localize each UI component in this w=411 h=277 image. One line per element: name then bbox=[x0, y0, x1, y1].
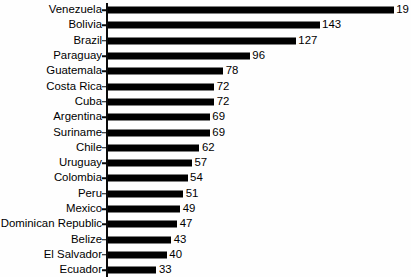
bar-value-label: 57 bbox=[195, 157, 208, 168]
axis-tick-mark bbox=[102, 254, 106, 256]
bar-row: Bolivia143 bbox=[0, 18, 411, 33]
bar bbox=[108, 98, 215, 105]
category-label: Ecuador bbox=[60, 265, 102, 276]
bar-value-label: 62 bbox=[202, 142, 215, 153]
bar-value-label: 72 bbox=[217, 96, 230, 107]
bar-row: Brazil127 bbox=[0, 33, 411, 48]
category-label: Brazil bbox=[74, 35, 102, 46]
bar-row: Uruguay57 bbox=[0, 156, 411, 171]
bar-value-label: 47 bbox=[180, 219, 193, 230]
axis-tick-mark bbox=[102, 224, 106, 226]
bar bbox=[108, 7, 394, 14]
bar-row: Argentina69 bbox=[0, 110, 411, 125]
bar-value-label: 40 bbox=[169, 249, 182, 260]
axis-tick-mark bbox=[102, 55, 106, 57]
axis-tick-mark bbox=[102, 208, 106, 210]
bar-row: Belize43 bbox=[0, 232, 411, 247]
bar-row: Colombia54 bbox=[0, 171, 411, 186]
bar bbox=[108, 190, 184, 197]
axis-tick-mark bbox=[102, 25, 106, 27]
category-label: Mexico bbox=[66, 203, 102, 214]
bar-value-label: 69 bbox=[212, 112, 225, 123]
bar bbox=[108, 68, 224, 75]
bar-chart: Venezuela19Bolivia143Brazil127Paraguay96… bbox=[0, 0, 411, 277]
axis-tick-mark bbox=[102, 269, 106, 271]
bar bbox=[108, 114, 210, 121]
bar-value-label: 127 bbox=[298, 35, 317, 46]
bar-row: Venezuela19 bbox=[0, 3, 411, 18]
category-label: Uruguay bbox=[59, 157, 102, 168]
bar-value-label: 43 bbox=[174, 234, 187, 245]
axis-tick-mark bbox=[102, 9, 106, 11]
bar-row: Peru51 bbox=[0, 186, 411, 201]
bar-value-label: 19 bbox=[396, 4, 409, 15]
category-label: Paraguay bbox=[53, 50, 102, 61]
category-label: Bolivia bbox=[68, 20, 102, 31]
axis-tick-mark bbox=[102, 101, 106, 103]
axis-tick-mark bbox=[102, 239, 106, 241]
category-label: Suriname bbox=[53, 127, 102, 138]
bar-row: Cuba72 bbox=[0, 94, 411, 109]
axis-tick-mark bbox=[102, 116, 106, 118]
axis-tick-mark bbox=[102, 40, 106, 42]
axis-tick-mark bbox=[102, 71, 106, 73]
axis-tick-mark bbox=[102, 193, 106, 195]
bar-value-label: 54 bbox=[190, 173, 203, 184]
bar bbox=[108, 251, 167, 258]
bar-value-label: 51 bbox=[186, 188, 199, 199]
axis-tick-mark bbox=[102, 162, 106, 164]
category-label: Costa Rica bbox=[46, 81, 102, 92]
axis-tick-mark bbox=[102, 178, 106, 180]
bar bbox=[108, 22, 320, 29]
bar-value-label: 96 bbox=[252, 50, 265, 61]
bar bbox=[108, 37, 296, 44]
category-label: Argentina bbox=[53, 112, 102, 123]
bar-value-label: 78 bbox=[226, 66, 239, 77]
bar bbox=[108, 129, 210, 136]
axis-tick-mark bbox=[102, 147, 106, 149]
category-label: El Salvador bbox=[44, 249, 102, 260]
bar-value-label: 49 bbox=[183, 203, 196, 214]
bar bbox=[108, 144, 200, 151]
category-label: Guatemala bbox=[46, 66, 102, 77]
category-label: Dominican Republic bbox=[1, 219, 102, 230]
category-label: Venezuela bbox=[49, 4, 102, 15]
bar-row: Ecuador33 bbox=[0, 263, 411, 277]
bar-row: Mexico49 bbox=[0, 201, 411, 216]
bar bbox=[108, 83, 215, 90]
category-label: Peru bbox=[78, 188, 102, 199]
axis-tick-mark bbox=[102, 132, 106, 134]
bar-row: Guatemala78 bbox=[0, 64, 411, 79]
category-label: Chile bbox=[76, 142, 102, 153]
bar-row: Costa Rica72 bbox=[0, 79, 411, 94]
bar bbox=[108, 53, 250, 60]
bar-row: Suriname69 bbox=[0, 125, 411, 140]
bar bbox=[108, 236, 172, 243]
category-label: Colombia bbox=[54, 173, 102, 184]
plot-area: Venezuela19Bolivia143Brazil127Paraguay96… bbox=[0, 0, 411, 277]
bar bbox=[108, 206, 181, 213]
bar bbox=[108, 267, 157, 274]
bar-row: El Salvador40 bbox=[0, 247, 411, 262]
bar-row: Paraguay96 bbox=[0, 48, 411, 63]
bar bbox=[108, 221, 178, 228]
category-label: Cuba bbox=[75, 96, 102, 107]
category-label: Belize bbox=[71, 234, 102, 245]
bar bbox=[108, 175, 188, 182]
bar-value-label: 72 bbox=[217, 81, 230, 92]
bar-value-label: 69 bbox=[212, 127, 225, 138]
bar bbox=[108, 160, 193, 167]
bar-value-label: 143 bbox=[322, 20, 341, 31]
bar-row: Chile62 bbox=[0, 140, 411, 155]
bar-row: Dominican Republic47 bbox=[0, 217, 411, 232]
bar-value-label: 33 bbox=[159, 265, 172, 276]
axis-tick-mark bbox=[102, 86, 106, 88]
